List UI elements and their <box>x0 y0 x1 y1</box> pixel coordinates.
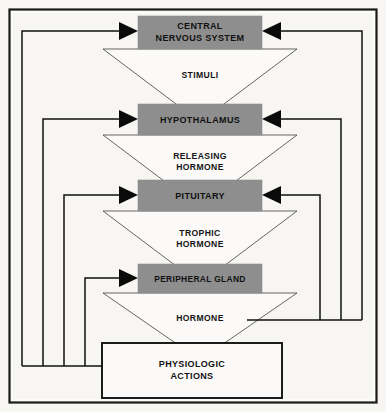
diagram-root: CENTRAL NERVOUS SYSTEM HYPOTHALAMUS PITU… <box>0 0 386 412</box>
flow-label-trophic-hormone-line1: TROPHIC <box>179 228 220 238</box>
node-hypothalamus-label: HYPOTHALAMUS <box>160 115 240 125</box>
physiologic-actions-label-line1: PHYSIOLOGIC <box>159 359 226 369</box>
flow-label-hormone: HORMONE <box>176 313 224 323</box>
node-peripheral-gland[interactable]: PERIPHERAL GLAND <box>138 264 262 293</box>
node-cns-label-line1: CENTRAL <box>177 21 223 31</box>
node-physiologic-actions[interactable]: PHYSIOLOGIC ACTIONS <box>102 343 282 398</box>
flow-label-releasing-hormone-line1: RELEASING <box>173 151 227 161</box>
node-pituitary[interactable]: PITUITARY <box>138 180 262 211</box>
flow-label-trophic-hormone-line2: HORMONE <box>176 239 224 249</box>
node-hypothalamus[interactable]: HYPOTHALAMUS <box>138 104 262 135</box>
node-cns[interactable]: CENTRAL NERVOUS SYSTEM <box>138 16 262 49</box>
physiologic-actions-label-line2: ACTIONS <box>171 371 214 381</box>
node-pituitary-label: PITUITARY <box>175 191 225 201</box>
node-peripheral-gland-label: PERIPHERAL GLAND <box>154 274 246 284</box>
flow-label-releasing-hormone-line2: HORMONE <box>176 162 224 172</box>
flow-label-stimuli: STIMULI <box>181 70 218 80</box>
feedback-diagram-canvas: CENTRAL NERVOUS SYSTEM HYPOTHALAMUS PITU… <box>0 0 386 412</box>
node-cns-label-line2: NERVOUS SYSTEM <box>156 33 245 43</box>
